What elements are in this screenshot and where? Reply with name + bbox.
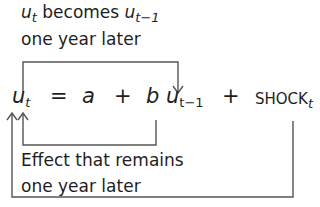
equals-sign: = (50, 84, 68, 108)
plus-sign-1: + (114, 84, 132, 108)
top-caption-line2: one year later (21, 29, 141, 49)
equation-lhs: ut (12, 84, 30, 108)
lagged-u: ut−1 (166, 84, 204, 108)
plus-sign-2: + (222, 84, 240, 108)
shock-term: SHOCKt (255, 89, 313, 108)
arrow-b-to-ut (23, 114, 156, 145)
constant-a: a (82, 84, 95, 108)
bottom-caption-line2: one year later (21, 176, 141, 196)
coefficient-b: b (146, 84, 159, 108)
top-caption-line1: ut becomes ut−1 (21, 2, 160, 22)
bottom-caption-line1: Effect that remains (21, 150, 184, 170)
